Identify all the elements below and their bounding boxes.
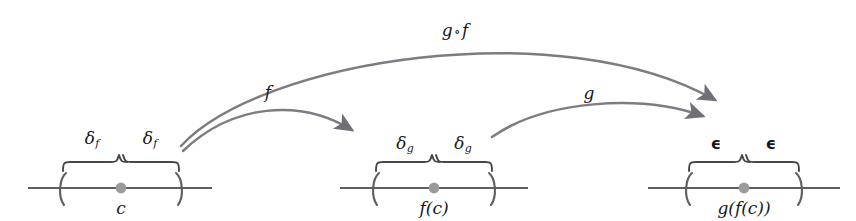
arc-label-f: f bbox=[265, 84, 271, 101]
brace-label-delta-f-left: δf bbox=[85, 130, 100, 149]
center-dot-fc bbox=[429, 183, 440, 194]
point-label-fc: f(c) bbox=[419, 200, 448, 217]
composition-ring-icon: ∘ bbox=[453, 24, 462, 39]
arc-f bbox=[183, 110, 352, 151]
brace-label-delta-g-right: δg bbox=[454, 135, 471, 154]
brace-c-right bbox=[123, 155, 179, 171]
brace-gfc-right bbox=[746, 155, 799, 171]
arc-label-g: g bbox=[584, 85, 595, 102]
brace-fc-left bbox=[376, 155, 440, 171]
arc-composition bbox=[181, 53, 715, 146]
center-dot-gfc bbox=[739, 183, 750, 194]
brace-label-epsilon-right: ϵ bbox=[766, 136, 776, 152]
brace-label-delta-f-right: δf bbox=[143, 130, 158, 149]
brace-gfc-left bbox=[689, 155, 750, 171]
arc-label-composition-f: f bbox=[462, 20, 468, 40]
point-label-gfc: g(f(c)) bbox=[717, 200, 770, 217]
arc-label-composition-g: g bbox=[442, 20, 453, 40]
arc-g bbox=[492, 103, 703, 137]
brace-fc-right bbox=[436, 155, 492, 171]
brace-label-delta-g-left: δg bbox=[396, 135, 413, 154]
diagram-canvas bbox=[0, 0, 856, 221]
point-label-c: c bbox=[116, 200, 126, 217]
arc-label-composition: g∘f bbox=[442, 22, 469, 39]
brace-label-epsilon-left: ϵ bbox=[711, 136, 721, 152]
brace-c-left bbox=[63, 155, 127, 171]
center-dot-c bbox=[116, 183, 127, 194]
epsilon-delta-composition-diagram: g∘f f g δf δf c δg δg f(c) ϵ ϵ g(f(c)) bbox=[0, 0, 856, 221]
